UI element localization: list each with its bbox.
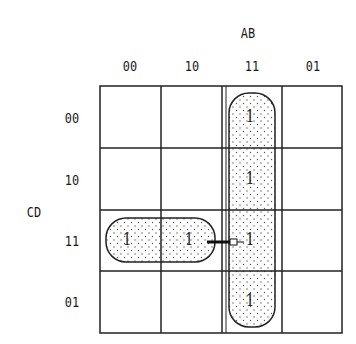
cell-r3-c2: 1 (245, 293, 255, 309)
cell-r0-c2: 1 (245, 109, 255, 125)
cell-r2-c0: 1 (122, 232, 132, 248)
cell-r1-c2: 1 (245, 171, 255, 187)
cell-r2-c1: 1 (184, 232, 194, 248)
kmap-grid (0, 0, 356, 344)
cell-r2-c2: 1 (245, 232, 255, 248)
